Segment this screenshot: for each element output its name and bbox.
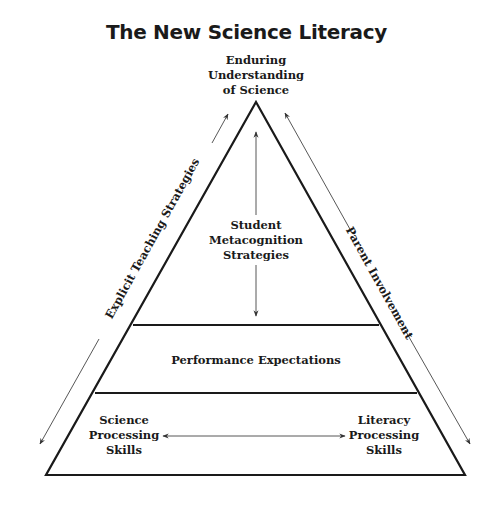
apex-label-line1: Enduring xyxy=(196,53,316,68)
apex-label-line2: Understanding xyxy=(196,68,316,83)
tier-top-label-line1: Student xyxy=(196,218,316,233)
science-label-line3: Skills xyxy=(88,443,160,458)
science-label-line2: Processing xyxy=(88,428,160,443)
tier-top-label: Student Metacognition Strategies xyxy=(196,218,316,263)
left-side-arrow-upper xyxy=(212,114,228,143)
tier-middle-label: Performance Expectations xyxy=(150,353,362,368)
science-label-line1: Science xyxy=(88,413,160,428)
apex-label-line3: of Science xyxy=(196,83,316,98)
literacy-label-line1: Literacy xyxy=(348,413,420,428)
science-processing-skills-label: Science Processing Skills xyxy=(88,413,160,458)
literacy-processing-skills-label: Literacy Processing Skills xyxy=(348,413,420,458)
tier-top-label-line3: Strategies xyxy=(196,248,316,263)
apex-label: Enduring Understanding of Science xyxy=(196,53,316,98)
literacy-label-line2: Processing xyxy=(348,428,420,443)
tier-top-label-line2: Metacognition xyxy=(196,233,316,248)
literacy-label-line3: Skills xyxy=(348,443,420,458)
